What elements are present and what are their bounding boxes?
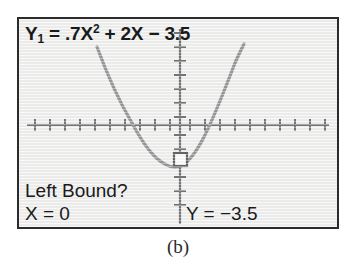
left-bound-cursor[interactable] (174, 153, 187, 166)
figure-root: Y1 = .7X2 + 2X − 3.5 Left Bound? X = 0 Y… (0, 0, 356, 269)
x-coordinate-readout: X = 0 (25, 204, 70, 223)
equation-superscript: 2 (93, 22, 99, 36)
equation-body-pre: .7X (65, 23, 93, 44)
parabola-curve (97, 44, 244, 167)
equation-var: Y (25, 23, 37, 44)
equation-label: Y1 = .7X2 + 2X − 3.5 (25, 24, 190, 43)
equation-equals: = (44, 23, 65, 44)
y-coordinate-readout: Y = −3.5 (186, 204, 258, 223)
figure-caption: (b) (0, 236, 356, 258)
left-bound-prompt: Left Bound? (25, 181, 127, 200)
calculator-screen[interactable]: Y1 = .7X2 + 2X − 3.5 Left Bound? X = 0 Y… (17, 17, 339, 229)
equation-body-post: + 2X − 3.5 (99, 23, 190, 44)
equation-subscript: 1 (37, 32, 43, 46)
